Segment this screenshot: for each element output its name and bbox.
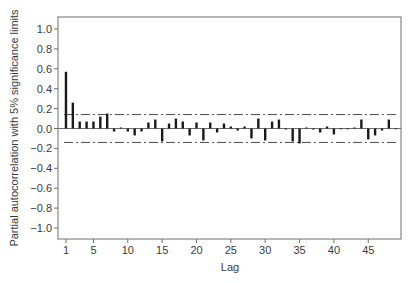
pacf-bar — [85, 122, 87, 129]
y-tick-label: 0.0 — [37, 123, 52, 135]
x-tick-label: 35 — [293, 244, 305, 256]
pacf-bar — [312, 129, 314, 130]
y-tick-label: 0.6 — [37, 63, 52, 75]
y-tick-label: 0.2 — [37, 103, 52, 115]
pacf-bar — [168, 124, 170, 129]
x-tick-label: 20 — [190, 244, 202, 256]
pacf-bar — [223, 124, 225, 129]
x-tick-label: 40 — [328, 244, 340, 256]
y-tick-label: 1.0 — [37, 23, 52, 35]
pacf-bar — [175, 119, 177, 129]
x-tick-label: 45 — [362, 244, 374, 256]
pacf-bar — [120, 128, 122, 129]
pacf-chart: 1.00.80.60.40.20.0−0.2−0.4−0.6−0.8−1.0 1… — [0, 0, 415, 283]
pacf-bar — [92, 122, 94, 129]
pacf-bar — [257, 119, 259, 129]
pacf-bar — [298, 129, 300, 144]
pacf-bar — [65, 72, 67, 129]
pacf-bar — [113, 129, 115, 132]
pacf-bars — [65, 72, 397, 144]
y-tick-label: −0.8 — [30, 202, 52, 214]
pacf-bar — [367, 129, 369, 140]
pacf-bar — [161, 129, 163, 142]
pacf-bar — [127, 129, 129, 132]
pacf-bar — [195, 123, 197, 129]
pacf-bar — [388, 120, 390, 129]
pacf-bar — [395, 129, 397, 130]
pacf-bar — [264, 129, 266, 141]
pacf-bar — [72, 103, 74, 129]
pacf-bar — [340, 129, 342, 130]
pacf-bar — [182, 122, 184, 129]
pacf-bar — [326, 127, 328, 129]
y-tick-label: −1.0 — [30, 222, 52, 234]
pacf-bar — [360, 120, 362, 129]
plot-frame — [58, 17, 401, 239]
x-tick-label: 5 — [90, 244, 96, 256]
pacf-bar — [202, 129, 204, 141]
pacf-bar — [230, 127, 232, 129]
y-tick-label: 0.8 — [37, 43, 52, 55]
pacf-bar — [250, 129, 252, 139]
y-tick-label: −0.2 — [30, 142, 52, 154]
pacf-bar — [79, 122, 81, 129]
pacf-bar — [209, 123, 211, 129]
pacf-bar — [305, 128, 307, 129]
pacf-bar — [285, 129, 287, 130]
pacf-bar — [353, 128, 355, 129]
pacf-bar — [106, 114, 108, 129]
x-tick-label: 15 — [156, 244, 168, 256]
pacf-bar — [99, 117, 101, 129]
pacf-bar — [319, 129, 321, 133]
pacf-bar — [291, 129, 293, 142]
pacf-bar — [278, 120, 280, 129]
pacf-bar — [133, 129, 135, 136]
y-tick-label: −0.4 — [30, 162, 52, 174]
pacf-bar — [147, 123, 149, 129]
x-tick-label: 10 — [122, 244, 134, 256]
pacf-bar — [271, 122, 273, 129]
x-tick-label: 25 — [225, 244, 237, 256]
y-axis: 1.00.80.60.40.20.0−0.2−0.4−0.6−0.8−1.0 — [30, 23, 58, 234]
pacf-bar — [188, 129, 190, 136]
pacf-bar — [154, 120, 156, 129]
pacf-bar — [381, 129, 383, 131]
pacf-bar — [346, 129, 348, 130]
x-tick-label: 30 — [259, 244, 271, 256]
pacf-bar — [216, 129, 218, 133]
pacf-bar — [140, 129, 142, 132]
x-tick-label: 1 — [63, 244, 69, 256]
y-tick-label: −0.6 — [30, 182, 52, 194]
x-axis: 151015202530354045 — [63, 239, 374, 256]
y-axis-title: Partial autocorrelation with 5% signific… — [8, 9, 20, 247]
pacf-bar — [243, 127, 245, 129]
pacf-bar — [333, 129, 335, 135]
pacf-bar — [374, 129, 376, 136]
pacf-bar — [237, 129, 239, 131]
x-axis-title: Lag — [221, 261, 239, 273]
y-tick-label: 0.4 — [37, 83, 52, 95]
